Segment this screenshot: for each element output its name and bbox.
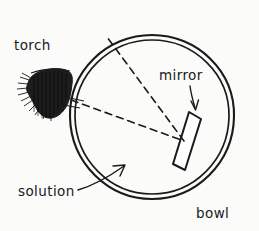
torch-shape bbox=[17, 69, 84, 121]
torch-label: torch bbox=[14, 37, 51, 53]
mirror-shape bbox=[173, 112, 201, 170]
bowl-label: bowl bbox=[196, 205, 229, 221]
mirror-label: mirror bbox=[159, 67, 203, 83]
bowl-outer-circle bbox=[70, 35, 234, 199]
mirror-rectangle bbox=[173, 112, 201, 170]
diagram-canvas: torch mirror solution bowl bbox=[0, 0, 259, 231]
diagram-svg: torch mirror solution bowl bbox=[0, 0, 259, 231]
bowl-shape bbox=[70, 35, 234, 199]
solution-label: solution bbox=[18, 183, 75, 199]
mirror-pointer bbox=[190, 86, 199, 110]
bowl-inner-circle bbox=[75, 40, 229, 194]
incident-ray bbox=[60, 96, 184, 141]
reflected-ray bbox=[107, 37, 184, 141]
torch-body bbox=[27, 69, 73, 119]
light-rays bbox=[60, 37, 184, 141]
